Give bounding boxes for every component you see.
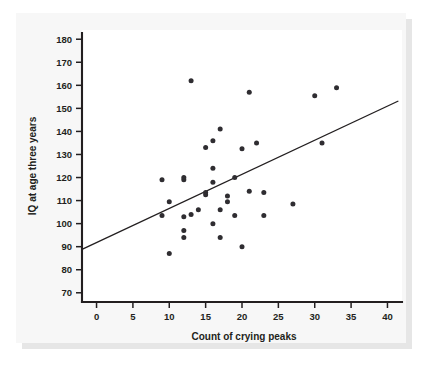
data-point (203, 145, 208, 150)
data-point (196, 207, 201, 212)
y-tick-label-150: 150 (56, 103, 72, 114)
data-point (232, 213, 237, 218)
data-point (240, 146, 245, 151)
x-tick-label-10: 10 (164, 311, 175, 322)
data-point (247, 90, 252, 95)
data-point (160, 177, 165, 182)
y-tick-label-80: 80 (61, 264, 72, 275)
x-tick-label-25: 25 (273, 311, 284, 322)
x-axis-title: Count of crying peaks (191, 331, 296, 342)
x-tick-label-20: 20 (237, 311, 248, 322)
data-point (181, 228, 186, 233)
data-point (261, 190, 266, 195)
data-point (189, 212, 194, 217)
data-point (312, 93, 317, 98)
y-tick-label-110: 110 (57, 195, 72, 206)
y-axis-title: IQ at age three years (27, 116, 38, 215)
x-tick-label-30: 30 (309, 311, 320, 322)
data-point (232, 175, 237, 180)
data-point (225, 199, 230, 204)
x-tick-label-40: 40 (382, 311, 393, 322)
data-point (261, 213, 266, 218)
scatter-chart: 708090100110120130140150160170180 051015… (0, 0, 429, 368)
data-point (181, 175, 186, 180)
data-point (225, 193, 230, 198)
y-axis-tick-labels: 708090100110120130140150160170180 (56, 34, 72, 299)
y-tick-label-100: 100 (56, 218, 72, 229)
data-point (167, 251, 172, 256)
figure-root: 708090100110120130140150160170180 051015… (0, 0, 429, 368)
data-point (320, 140, 325, 145)
data-point (210, 166, 215, 171)
data-point (218, 127, 223, 132)
y-tick-label-160: 160 (56, 80, 72, 91)
x-tick-label-35: 35 (346, 311, 357, 322)
data-point (160, 213, 165, 218)
x-tick-label-15: 15 (200, 311, 211, 322)
y-tick-label-130: 130 (56, 149, 72, 160)
data-point (189, 78, 194, 83)
y-tick-label-70: 70 (61, 287, 72, 298)
data-point (181, 235, 186, 240)
data-point (218, 207, 223, 212)
data-point (210, 221, 215, 226)
y-tick-label-180: 180 (56, 34, 72, 45)
x-axis-tick-labels: 0510152025303540 (94, 311, 393, 322)
y-tick-label-90: 90 (61, 241, 72, 252)
y-tick-label-170: 170 (56, 57, 72, 68)
data-point (290, 202, 295, 207)
y-tick-label-140: 140 (56, 126, 72, 137)
x-tick-label-0: 0 (94, 311, 99, 322)
y-tick-label-120: 120 (56, 172, 72, 183)
data-point (218, 235, 223, 240)
x-tick-label-5: 5 (130, 311, 136, 322)
data-point (247, 189, 252, 194)
data-point (210, 180, 215, 185)
data-point (240, 244, 245, 249)
plot-area-background (82, 30, 402, 302)
data-point (203, 192, 208, 197)
data-point (167, 199, 172, 204)
data-point (210, 138, 215, 143)
data-point (254, 140, 259, 145)
data-point (334, 85, 339, 90)
data-point (181, 214, 186, 219)
